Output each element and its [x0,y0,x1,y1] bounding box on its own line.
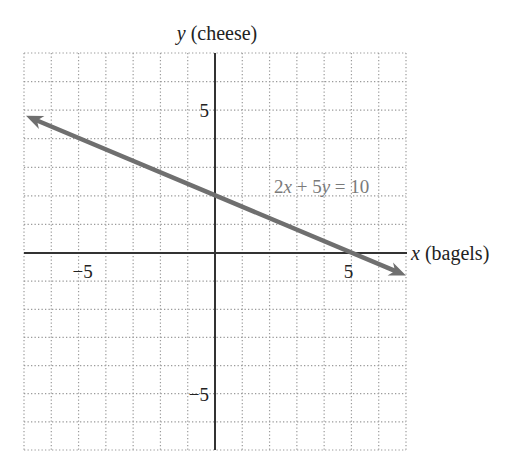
eq-part: = 10 [330,176,369,197]
x-tick-label-pos5: 5 [344,261,354,282]
y-axis-var: y [175,22,186,45]
x-axis-var: x [410,242,420,264]
chart: y (cheese) x (bagels) −5 5 5 −5 2x + 5y … [0,0,514,469]
y-tick-label-pos5: 5 [200,100,210,121]
eq-part: + 5 [292,176,322,197]
y-tick-label-neg5: −5 [189,384,209,405]
x-axis-title: (bagels) [420,242,489,265]
eq-part: 2 [274,176,284,197]
y-axis-title: (cheese) [186,22,258,45]
equation-label: 2x + 5y = 10 [274,176,369,197]
x-tick-label-neg5: −5 [72,261,92,282]
y-axis-label: y (cheese) [175,22,258,45]
x-axis-label: x (bagels) [410,242,489,265]
eq-var-y: y [320,176,331,197]
